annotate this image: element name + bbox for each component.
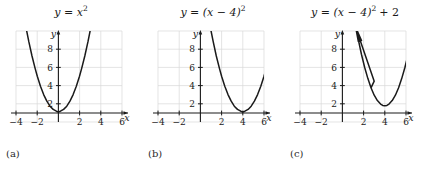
panel-b-svg: −4 −2 2 4 6 2 4 6 8 x y xyxy=(150,28,278,128)
panel-a-ytick-label-2: 6 xyxy=(47,63,53,73)
panel-b-xtick-label-2: 2 xyxy=(219,117,225,127)
panel-b-x-axis-label: x xyxy=(266,112,272,123)
panel-a-svg: −4 −2 2 4 6 2 4 6 8 x y xyxy=(8,28,136,128)
panel-c: y = (x − 4)2+ 2 xyxy=(284,0,426,171)
panel-c-ytick-label-3: 8 xyxy=(331,44,337,54)
panel-b-caption: (b) xyxy=(148,148,162,159)
panel-a-plot: −4 −2 2 4 6 2 4 6 8 x y xyxy=(8,28,136,128)
panel-b: y = (x − 4)2 xyxy=(142,0,284,171)
panel-c-xtick-label-1: −2 xyxy=(315,117,328,127)
panel-a-title-exponent: 2 xyxy=(83,4,88,13)
panel-b-x-axis xyxy=(153,111,270,115)
panel-c-y-axis-label: y xyxy=(334,28,341,39)
panel-b-ytick-label-2: 6 xyxy=(189,63,195,73)
panel-c-title-exponent: 2 xyxy=(371,4,376,13)
panel-a-gridlines xyxy=(16,31,122,122)
panel-a-y-axis-label: y xyxy=(50,28,57,39)
panel-a-title: y = x2 xyxy=(0,6,142,20)
panel-b-title-exponent: 2 xyxy=(241,4,246,13)
panel-c-gridlines xyxy=(300,31,406,122)
panel-a-xtick-label-2: 2 xyxy=(77,117,83,127)
panel-a-x-axis xyxy=(11,111,128,115)
panel-c-xtick-label-0: −4 xyxy=(293,117,307,127)
panel-b-plot: −4 −2 2 4 6 2 4 6 8 x y xyxy=(150,28,278,128)
panel-b-ytick-label-3: 8 xyxy=(189,44,195,54)
panel-c-xtick-label-2: 2 xyxy=(361,117,367,127)
panel-a-xtick-label-1: −2 xyxy=(31,117,44,127)
panel-c-caption: (c) xyxy=(290,148,303,159)
panel-c-ytick-label-0: 2 xyxy=(331,99,337,109)
panel-b-xtick-label-3: 4 xyxy=(240,117,246,127)
panel-c-svg: −4 −2 2 4 6 2 4 6 8 x y xyxy=(292,28,420,128)
panel-a-y-axis xyxy=(57,30,61,122)
panel-b-title: y = (x − 4)2 xyxy=(142,6,284,20)
panel-a-xtick-label-0: −4 xyxy=(9,117,23,127)
panel-c-ytick-label-1: 4 xyxy=(331,81,337,91)
panel-b-y-axis-label: y xyxy=(192,28,199,39)
panel-c-title: y = (x − 4)2+ 2 xyxy=(284,6,426,20)
panel-c-x-axis xyxy=(295,111,412,115)
panel-a-caption: (a) xyxy=(6,148,20,159)
panel-b-xtick-label-1: −2 xyxy=(173,117,186,127)
panel-c-xtick-label-3: 4 xyxy=(382,117,388,127)
panel-b-y-axis xyxy=(199,30,203,122)
panel-b-xtick-label-0: −4 xyxy=(151,117,165,127)
panel-b-ytick-label-0: 2 xyxy=(189,99,195,109)
panel-c-y-axis xyxy=(341,30,345,122)
panel-c-title-equals: = xyxy=(317,6,333,19)
panel-b-title-base: (x − 4) xyxy=(203,6,241,19)
panel-c-plot: −4 −2 2 4 6 2 4 6 8 x y xyxy=(292,28,420,128)
panel-a: y = x2 xyxy=(0,0,142,171)
panel-c-title-suffix: + 2 xyxy=(379,6,399,19)
panel-a-xtick-label-3: 4 xyxy=(98,117,104,127)
panel-a-title-equals: = xyxy=(61,6,77,19)
parabola-figure-row: y = x2 xyxy=(0,0,428,171)
panel-c-x-axis-label: x xyxy=(408,112,414,123)
panel-c-ytick-label-2: 6 xyxy=(331,63,337,73)
panel-a-x-axis-label: x xyxy=(124,112,130,123)
panel-b-title-equals: = xyxy=(187,6,203,19)
panel-a-ytick-label-1: 4 xyxy=(47,81,53,91)
panel-a-ytick-label-3: 8 xyxy=(47,44,53,54)
panel-c-title-base: (x − 4) xyxy=(333,6,371,19)
panel-b-ytick-label-1: 4 xyxy=(189,81,195,91)
